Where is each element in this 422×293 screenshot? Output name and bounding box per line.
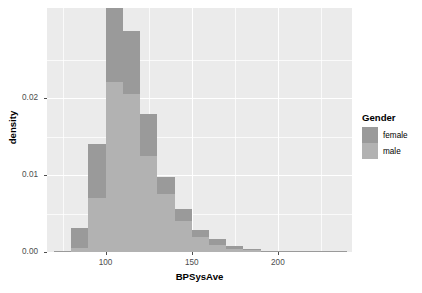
bar-segment — [295, 251, 312, 252]
bar-segment — [157, 194, 174, 252]
bar-segment — [123, 94, 140, 252]
bar-segment — [261, 251, 278, 252]
x-tick-mark — [192, 252, 193, 255]
legend-item-label: female — [383, 131, 408, 140]
bar-segment — [88, 144, 105, 198]
bar-segment — [157, 177, 174, 194]
x-tick-label: 100 — [99, 259, 113, 267]
bar-segment — [192, 230, 209, 237]
bar-segment — [140, 156, 157, 252]
histogram-figure: 0.000.010.02 density 100150200 BPSysAve … — [0, 0, 422, 293]
bar-segment — [192, 237, 209, 252]
bar-segment — [330, 251, 347, 252]
x-axis-title: BPSysAve — [47, 271, 352, 282]
legend-item-female[interactable]: female — [362, 127, 420, 143]
bar-segment — [106, 82, 123, 252]
bar-segment — [209, 245, 226, 252]
x-tick-mark — [106, 252, 107, 255]
bar-segment — [278, 251, 295, 252]
legend-item-male[interactable]: male — [362, 143, 420, 159]
legend-item-label: male — [383, 147, 401, 156]
bar-segment — [261, 251, 278, 252]
bar-segment — [175, 221, 192, 252]
x-tick-label: 200 — [271, 259, 285, 267]
y-tick-mark — [44, 252, 47, 253]
histogram-bars — [47, 8, 352, 252]
bar-segment — [71, 228, 88, 248]
bar-segment — [226, 249, 243, 252]
bar-segment — [226, 246, 243, 249]
x-tick-mark — [278, 252, 279, 255]
legend-key-swatch — [362, 127, 378, 143]
y-tick-label: 0.00 — [6, 248, 38, 256]
legend: Gender femalemale — [362, 112, 420, 159]
x-tick-label: 150 — [185, 259, 199, 267]
legend-items: femalemale — [362, 127, 420, 159]
bar-segment — [175, 209, 192, 221]
bar-segment — [54, 251, 71, 252]
y-axis-title: density — [7, 83, 18, 173]
legend-key-swatch — [362, 143, 378, 159]
bar-segment — [312, 251, 329, 252]
bar-segment — [209, 239, 226, 245]
plot-panel — [47, 8, 352, 252]
y-tick-mark — [44, 175, 47, 176]
bar-segment — [71, 248, 88, 252]
bar-segment — [123, 31, 140, 93]
bar-segment — [140, 114, 157, 156]
bar-segment — [88, 198, 105, 252]
bar-segment — [54, 251, 71, 252]
bar-segment — [106, 8, 123, 82]
y-tick-mark — [44, 98, 47, 99]
bar-segment — [243, 250, 260, 252]
bar-segment — [243, 249, 260, 250]
legend-title: Gender — [362, 112, 420, 123]
